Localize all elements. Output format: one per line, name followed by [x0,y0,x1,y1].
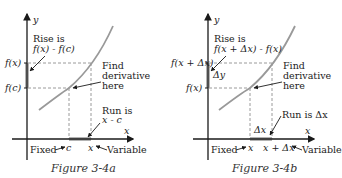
delta-y-label: Δy [212,69,226,80]
find-derivative-line3: here [102,80,124,91]
y-tick-fc: f(c) [4,82,22,93]
derivative-figures: y x Rise is f(x) - f(c) f(x) f(c) Find d… [0,0,342,178]
x-tick-x: x [88,142,94,153]
figure-caption: Figure 3-4b [231,162,297,175]
x-tick-xdx: x + Δx [263,142,295,153]
run-label: Run is Δx [282,109,328,120]
y-tick-fx: f(x) [4,57,22,68]
run-arrow [88,123,100,137]
figure-3-4a: y x Rise is f(x) - f(c) f(x) f(c) Find d… [4,14,151,175]
find-derivative-arrow [254,82,282,88]
y-tick-fx: f(x) [185,82,203,93]
rise-label-line2: f(x + Δx) - f(x) [213,43,282,54]
delta-x-label: Δx [253,124,267,135]
fixed-label: Fixed [30,144,57,155]
fixed-label: Fixed [211,144,238,155]
x-tick-x: x [248,142,254,153]
find-derivative-line3: here [283,80,305,91]
find-derivative-arrow [73,82,101,88]
figure-caption: Figure 3-4a [50,162,116,175]
x-axis-label: x [305,125,311,136]
variable-label: Variable [301,144,342,155]
figure-3-4b: y x Rise is f(x + Δx) - f(x) f(x + Δx) f… [170,14,342,175]
y-tick-fxdx: f(x + Δx) [170,57,214,68]
rise-label-line2: f(x) - f(c) [32,43,75,54]
y-axis-label: y [213,14,220,25]
run-label-line2: x - c [102,114,123,125]
variable-arrow [96,146,107,150]
x-axis-label: x [124,125,130,136]
rise-arrow [30,56,45,71]
variable-label: Variable [106,144,147,155]
y-axis-label: y [32,14,39,25]
x-tick-c: c [66,142,72,153]
